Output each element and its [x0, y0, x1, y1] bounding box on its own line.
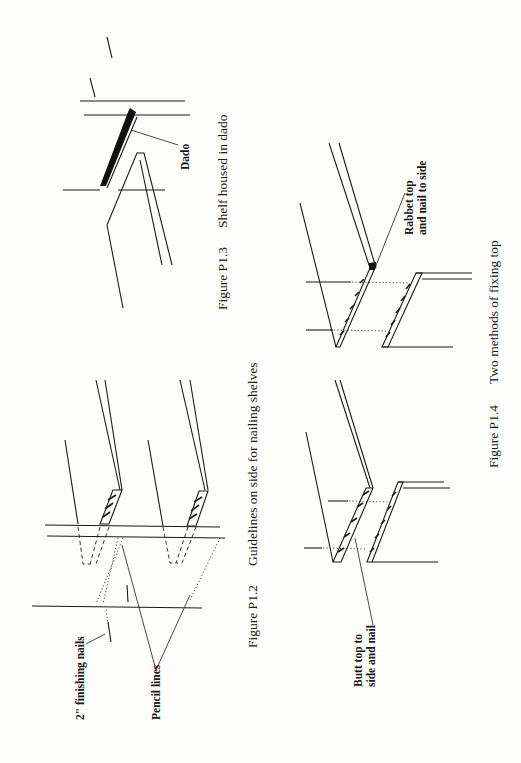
figure-p1-3-caption-text: Shelf housed in dado — [215, 114, 230, 228]
book-page: Dado Figure P1.3 Shelf housed in dado — [0, 0, 521, 763]
figure-p1-2-caption-text: Guidelines on side for nailing shelves — [245, 362, 260, 566]
figure-p1-3-caption-number: Figure P1.3 — [215, 247, 230, 310]
butt-top-label-line1: Butt top to — [352, 634, 365, 687]
finishing-nails-label: 2" finishing nails — [74, 636, 87, 720]
figure-p1-4-drawing: Rabbet top and nail to side Butt top to … — [300, 143, 472, 687]
figure-p1-3-drawing: Dado — [63, 37, 191, 308]
figure-p1-4-caption-text: Two methods of fixing top — [486, 240, 501, 384]
figure-p1-2-caption-number: Figure P1.2 — [245, 585, 260, 648]
figures-drawing: Dado Figure P1.3 Shelf housed in dado — [0, 0, 521, 763]
figure-p1-4-caption-number: Figure P1.4 — [486, 405, 501, 468]
rabbet-top-label-line1: Rabbet top — [403, 180, 416, 235]
figure-p1-2-drawing: 2" finishing nails Pencil lines — [32, 380, 225, 720]
rabbet-top-label-line2: and nail to side — [416, 161, 428, 235]
pencil-lines-label: Pencil lines — [150, 664, 162, 720]
butt-top-label-line2: side and nail — [365, 625, 377, 687]
dado-label: Dado — [179, 144, 191, 170]
